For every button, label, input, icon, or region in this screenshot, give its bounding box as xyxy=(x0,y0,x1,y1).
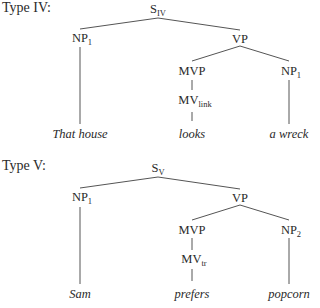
node-mvp: MVP xyxy=(178,223,205,237)
node-mvp: MVP xyxy=(178,64,205,78)
tree-branches xyxy=(0,0,320,308)
node-mv: MVtr xyxy=(181,252,206,266)
node-vp: VP xyxy=(232,191,248,205)
word-subject: That house xyxy=(52,127,107,141)
word-object: popcorn xyxy=(268,287,310,301)
word-subject: Sam xyxy=(69,287,91,301)
node-subject-np: NP1 xyxy=(72,190,92,204)
node-object-np: NP1 xyxy=(281,64,301,78)
node-subject-np: NP1 xyxy=(72,31,92,45)
node-mv: MVlink xyxy=(178,93,211,107)
node-vp: VP xyxy=(232,32,248,46)
node-sentence: SIV xyxy=(150,2,166,16)
word-object: a wreck xyxy=(270,127,309,141)
diagram-title: Type V: xyxy=(2,158,46,174)
word-verb: looks xyxy=(179,127,205,141)
diagram-title: Type IV: xyxy=(2,0,51,16)
word-verb: prefers xyxy=(175,287,210,301)
node-object-np: NP2 xyxy=(281,223,301,237)
node-sentence: SV xyxy=(151,161,164,175)
